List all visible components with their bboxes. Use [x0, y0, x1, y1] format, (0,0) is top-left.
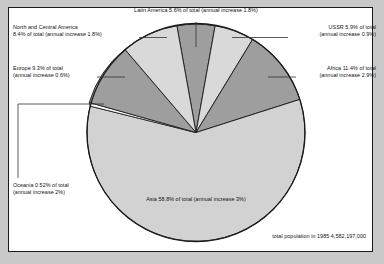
label-latin-america-line1: Latin America 5.6% of total (annual incr… — [112, 7, 280, 14]
pie-chart-svg — [0, 0, 384, 264]
label-europe-line2: (annual increase 0.6%) — [13, 72, 123, 79]
label-africa-line2: (annual increase 2.9%) — [272, 72, 376, 79]
footnote-total-population: total population in 1985 4,582,197,000 — [196, 233, 366, 240]
pie-slices — [87, 24, 305, 242]
label-oceania-line2: (annual increase 2%) — [13, 189, 117, 196]
label-north-and-central-america: North and Central America 8.4% of total … — [13, 24, 143, 38]
label-africa: Africa 11.4% of total (annual increase 2… — [272, 65, 376, 79]
label-europe: Europe 9.3% of total (annual increase 0.… — [13, 65, 123, 79]
footnote-text: total population in 1985 4,582,197,000 — [196, 233, 366, 240]
label-africa-line1: Africa 11.4% of total — [272, 65, 376, 72]
label-oceania: Oceania 0.52% of total (annual increase … — [13, 182, 117, 196]
label-asia-line1: Asia 58.8% of total (annual increase 3%) — [106, 196, 286, 203]
label-latin-america: Latin America 5.6% of total (annual incr… — [112, 7, 280, 14]
label-asia: Asia 58.8% of total (annual increase 3%) — [106, 196, 286, 203]
label-ussr-line1: USSR 5.9% of total — [272, 24, 376, 31]
label-oceania-line1: Oceania 0.52% of total — [13, 182, 117, 189]
label-europe-line1: Europe 9.3% of total — [13, 65, 123, 72]
pie-chart-figure: Latin America 5.6% of total (annual incr… — [0, 0, 384, 264]
label-north-and-central-america-line2: 8.4% of total (annual increase 1.8%) — [13, 31, 143, 38]
label-ussr: USSR 5.9% of total (annual increase 0.9%… — [272, 24, 376, 38]
label-north-and-central-america-line1: North and Central America — [13, 24, 143, 31]
label-ussr-line2: (annual increase 0.9%) — [272, 31, 376, 38]
